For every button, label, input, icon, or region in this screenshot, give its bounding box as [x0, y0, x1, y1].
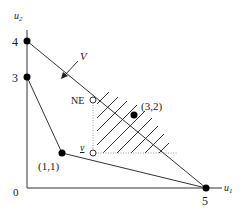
u1-axis-label: u1 [224, 182, 233, 195]
vertex-5-0 [203, 185, 210, 192]
vertex-0-4 [24, 38, 31, 45]
origin-label: 0 [13, 186, 19, 198]
u2-axis-label: u2 [14, 10, 23, 23]
vertex-1-1 [59, 150, 66, 157]
v-label: v [80, 142, 85, 153]
ne-label: NE [71, 95, 84, 106]
point-label-3-2: (3,2) [141, 100, 162, 113]
ne-point [90, 97, 96, 103]
arrow-label: V [80, 50, 88, 62]
payoff-region-diagram: V u2 u1 4 3 0 5 (1,1) (3,2) NE v [0, 0, 245, 215]
vertex-0-3 [24, 74, 31, 81]
tick-x-5: 5 [202, 194, 208, 208]
tick-y-4: 4 [12, 35, 18, 49]
v-point [90, 150, 96, 156]
point-label-1-1: (1,1) [38, 160, 59, 173]
v-arrow [64, 61, 78, 76]
point-3-2 [131, 112, 138, 119]
tick-y-3: 3 [12, 71, 18, 85]
